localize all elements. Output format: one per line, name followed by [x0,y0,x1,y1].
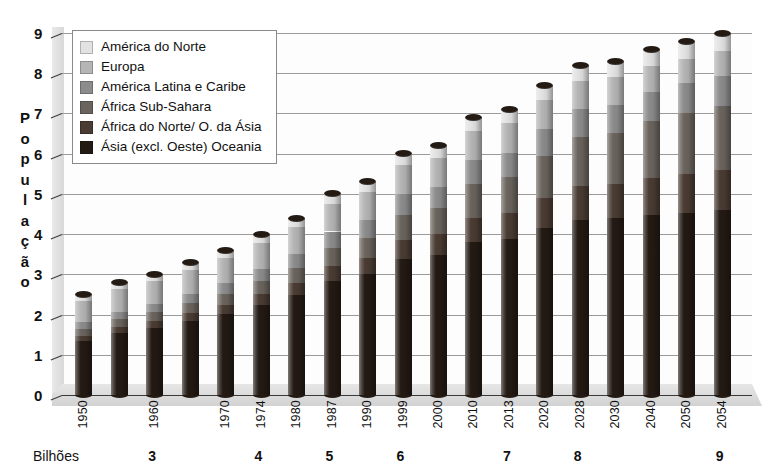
milestone-5: 5 [326,448,334,464]
bar-segment-0 [182,321,199,395]
y-title-letter: ã [14,252,36,273]
bar-segment-3 [643,92,660,121]
bar-segment-4 [111,289,128,311]
milestone-9: 9 [716,448,724,464]
x-axis-label-2050: 2050 [679,400,693,429]
bar-2028 [572,65,589,395]
bar-segment-3 [536,129,553,156]
bar-segment-2 [111,319,128,327]
bar-segment-3 [359,220,376,238]
bar-segment-3 [324,232,341,248]
x-axis-label-1980: 1980 [289,400,303,429]
bar-segment-1 [501,213,518,239]
bar-2054 [714,33,731,395]
legend-label: América Latina e Caribe [101,80,246,94]
x-axis-label-2000: 2000 [431,400,445,429]
bar-segment-4 [182,270,199,294]
bar-segment-4 [75,301,92,322]
bar-segment-3 [146,304,163,312]
bar-segment-3 [714,76,731,105]
legend-swatch-icon [80,81,93,94]
bar-1980 [288,218,305,395]
bar-segment-3 [395,194,412,214]
bar-segment-3 [217,283,234,294]
legend-swatch-icon [80,61,93,74]
units-label: Bilhões [33,448,79,464]
y-title-letter: a [14,211,36,232]
legend-item-0: América do Norte [80,38,269,56]
x-axis-label-1974: 1974 [254,400,268,429]
bar-segment-2 [501,177,518,213]
legend-item-3: África Sub-Sahara [80,98,269,116]
bar-segment-1 [182,313,199,321]
bar-top-ellipse [395,150,412,157]
bar-idx1 [111,282,128,395]
bar-segment-1 [75,336,92,341]
bar-segment-2 [217,294,234,305]
bar-segment-1 [217,305,234,314]
bar-segment-0 [395,259,412,395]
bar-segment-3 [465,160,482,184]
bar-segment-4 [217,258,234,283]
bar-segment-0 [501,239,518,395]
x-axis-label-2010: 2010 [466,400,480,429]
x-axis-label-2054: 2054 [715,400,729,429]
bar-2000 [430,146,447,395]
legend-label: Europa [101,60,145,74]
bar-segment-3 [572,109,589,137]
x-axis-label-2040: 2040 [644,400,658,429]
bar-segment-1 [359,258,376,274]
bar-segment-0 [643,215,660,395]
bar-segment-0 [465,242,482,395]
milestone-3: 3 [148,448,156,464]
legend-label: Ásia (excl. Oeste) Oceania [101,140,262,154]
legend-swatch-icon [80,101,93,114]
bar-segment-4 [146,281,163,304]
bar-2030 [607,61,624,395]
y-title-letter: P [14,108,36,129]
legend-label: América do Norte [101,40,206,54]
y-title-letter: p [14,149,36,170]
bar-top-ellipse [501,106,518,113]
bar-1999 [395,154,412,395]
bar-segment-0 [536,228,553,395]
bar-segment-1 [324,266,341,281]
bar-segment-0 [714,210,731,395]
bar-segment-4 [501,123,518,152]
bar-segment-3 [678,83,695,112]
bar-segment-1 [714,170,731,210]
bar-segment-4 [572,81,589,109]
bar-idx3 [182,262,199,395]
x-axis-label-2028: 2028 [573,400,587,429]
bar-segment-2 [359,238,376,258]
y-axis-title: População [14,108,36,293]
plot-left-wall [52,27,64,401]
bar-1950 [75,294,92,395]
bar-segment-4 [253,243,270,269]
legend-label: África do Norte/ O. da Ásia [101,120,262,134]
milestone-4: 4 [255,448,263,464]
bar-segment-0 [572,220,589,395]
bar-segment-0 [253,305,270,395]
legend-item-5: Ásia (excl. Oeste) Oceania [80,138,269,156]
bar-2050 [678,41,695,395]
bar-segment-1 [678,174,695,213]
bar-top-ellipse [536,82,553,89]
bar-segment-3 [288,254,305,268]
bar-1970 [217,250,234,395]
bar-segment-3 [430,187,447,208]
bar-top-ellipse [75,291,92,298]
bar-segment-4 [465,131,482,160]
bar-segment-4 [678,59,695,84]
bar-segment-2 [678,113,695,175]
bar-segment-0 [288,295,305,395]
bar-segment-1 [111,327,128,333]
bar-1974 [253,234,270,395]
legend-item-2: América Latina e Caribe [80,78,269,96]
bar-segment-2 [324,248,341,266]
bar-2013 [501,109,518,395]
bar-top-ellipse [288,215,305,222]
bar-segment-3 [75,322,92,329]
bar-top-ellipse [182,259,199,266]
bar-segment-0 [111,333,128,395]
